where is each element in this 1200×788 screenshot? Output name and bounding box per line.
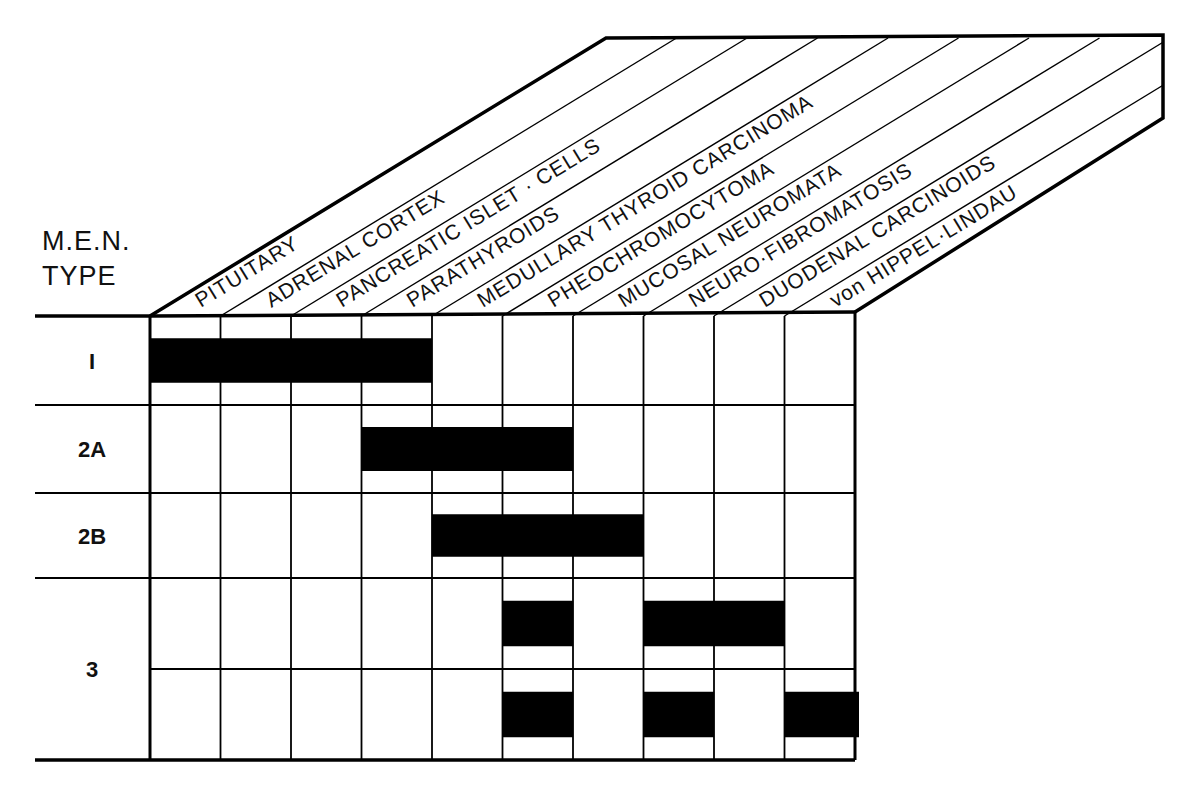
row-labels: I2A2B3: [78, 349, 106, 683]
occurrence-bar: [432, 514, 644, 557]
occurrence-bar: [150, 338, 432, 383]
row-label-type: I: [89, 349, 95, 374]
row-label-type: 2A: [78, 437, 106, 462]
occurrence-bar: [503, 601, 574, 647]
occurrence-bar: [785, 692, 860, 738]
men-title-line1: M.E.N.: [42, 226, 131, 256]
occurrence-bar: [644, 692, 715, 738]
occurrence-bar: [644, 601, 785, 647]
bars: [150, 338, 859, 737]
column-header-labels: PITUITARYADRENAL CORTEXPANCREATIC ISLET …: [191, 89, 1021, 311]
men-title-line2: TYPE: [42, 261, 117, 291]
grid-top-rule: [150, 312, 855, 316]
row-label-type: 2B: [78, 524, 106, 549]
occurrence-bar: [362, 427, 574, 471]
occurrence-bar: [503, 692, 574, 738]
row-label-type: 3: [86, 657, 98, 682]
men-type-diagram: PITUITARYADRENAL CORTEXPANCREATIC ISLET …: [0, 0, 1200, 788]
